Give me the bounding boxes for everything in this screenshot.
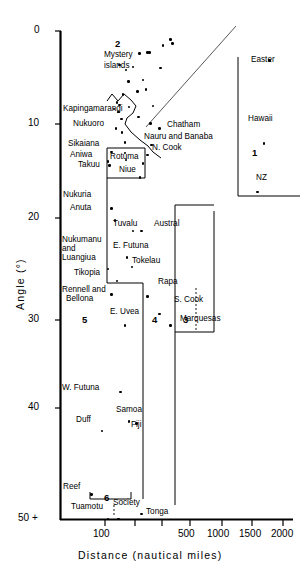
- label-nukumanu-3: Luangiua: [62, 253, 96, 263]
- chart-canvas: [0, 0, 305, 571]
- data-point-mystery-21: [121, 131, 124, 134]
- label-reef: Reef: [63, 482, 80, 492]
- label-e-uvea: E. Uvea: [110, 307, 139, 317]
- label-sikaiana: Sikaiana: [68, 139, 99, 149]
- x-tick-label-2000: 2000: [271, 528, 293, 539]
- label-hawaii: Hawaii: [248, 114, 273, 124]
- label-nukuoro: Nukuoro: [73, 119, 104, 129]
- label-easter: Easter: [251, 55, 275, 65]
- region-label-1: 1: [252, 147, 258, 158]
- data-point-mystery-20: [149, 122, 152, 125]
- trend-line: [146, 26, 236, 127]
- label-nz: NZ: [256, 173, 267, 183]
- region-label-4: 4: [152, 314, 158, 325]
- y-tick-label-50: 50 +: [18, 512, 38, 523]
- x-axis-ticks: [105, 520, 283, 526]
- data-point-mystery-10: [127, 80, 130, 83]
- data-point-fiji: [135, 422, 138, 425]
- label-marquesas: Marquesas: [180, 314, 221, 324]
- data-point-mystery-18: [120, 118, 123, 121]
- data-point-rapa: [146, 295, 149, 298]
- data-point-nukuria: [110, 207, 113, 210]
- data-point-mystery-7: [171, 42, 174, 45]
- label-rennell-2: Bellona: [66, 294, 93, 304]
- label-tikopia: Tikopia: [74, 268, 100, 278]
- label-anuta: Anuta: [70, 203, 91, 213]
- y-tick-label-0: 0: [34, 24, 40, 35]
- data-point-mystery-6: [169, 38, 172, 41]
- x-tick-label-1500: 1500: [239, 528, 261, 539]
- data-point-marquesas: [169, 324, 172, 327]
- region-1-bracket: [238, 57, 300, 196]
- data-point-rennell-and-bellona: [110, 293, 113, 296]
- label-tonga: Tonga: [146, 507, 168, 517]
- region-label-2: 2: [115, 38, 121, 49]
- label-tuamotu: Tuamotu: [71, 502, 103, 512]
- data-point-mystery-25: [116, 101, 119, 104]
- label-s-cook: S. Cook: [174, 295, 203, 305]
- x-tick-label-100: 100: [93, 528, 110, 539]
- data-point-mystery-22: [124, 141, 127, 144]
- data-point-reef: [90, 493, 93, 496]
- label-duff: Duff: [76, 415, 91, 425]
- y-axis-title: Angle (°): [14, 258, 26, 310]
- label-tuvalu: Tuvalu: [113, 219, 137, 229]
- x-tick-label-1000: 1000: [207, 528, 229, 539]
- region-label-5: 5: [82, 314, 88, 325]
- region-3-boundary: [175, 205, 214, 332]
- data-point-takuu: [108, 164, 111, 167]
- data-point-niue: [139, 176, 142, 179]
- data-point-mystery-2: [138, 52, 141, 55]
- data-point-easter: [268, 59, 271, 62]
- data-point-mystery-19: [137, 116, 140, 119]
- x-axis-title: Distance (nautical miles): [78, 549, 222, 561]
- label-takuu: Takuu: [78, 160, 100, 170]
- label-tokelau: Tokelau: [132, 256, 160, 266]
- data-point-hawaii: [263, 142, 266, 145]
- y-tick-label-10: 10: [28, 117, 39, 128]
- label-society: Society: [113, 498, 140, 508]
- label-nukuria: Nukuria: [63, 190, 91, 200]
- label-mystery: Mystery: [104, 50, 133, 60]
- data-point-anuta: [114, 219, 117, 222]
- label-nauru: Nauru and Banaba: [144, 132, 213, 142]
- data-point-society: [117, 518, 120, 521]
- label-niue: Niue: [119, 165, 136, 175]
- region-label-6: 6: [104, 492, 110, 503]
- label-aniwa: Aniwa: [70, 150, 92, 160]
- data-point-chatham: [158, 127, 161, 130]
- data-point-mystery-4: [148, 51, 151, 54]
- chart-figure: 0 10 20 30 40 50 + 100 500 1000 1500 200…: [0, 0, 305, 571]
- x-tick-label-500: 500: [178, 528, 195, 539]
- label-ncook: N. Cook: [152, 143, 182, 153]
- data-point-mystery-5: [162, 44, 165, 47]
- label-samoa: Samoa: [116, 405, 142, 415]
- label-chatham: Chatham: [167, 120, 200, 130]
- label-w-futuna: W. Futuna: [62, 383, 99, 393]
- label-austral: Austral: [154, 219, 179, 229]
- y-tick-label-30: 30: [28, 313, 39, 324]
- data-point-mystery-12: [136, 90, 139, 93]
- data-point-nukuoro: [115, 127, 118, 130]
- label-e-futuna: E. Futuna: [113, 241, 149, 251]
- y-tick-label-20: 20: [28, 211, 39, 222]
- y-tick-label-40: 40: [28, 401, 39, 412]
- label-rapa: Rapa: [158, 277, 178, 287]
- data-point-mystery-14: [122, 93, 125, 96]
